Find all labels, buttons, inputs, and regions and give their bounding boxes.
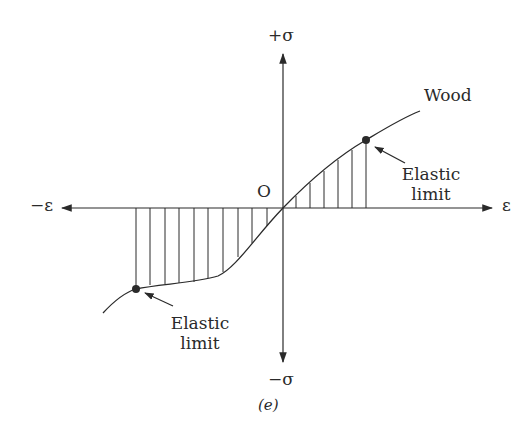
y-negative-label: −σ <box>268 370 294 390</box>
upper-elastic-limit-label: Elastic limit <box>398 165 464 204</box>
x-positive-label: ε <box>502 196 511 216</box>
stress-strain-diagram: +σ −σ ε −ε O Wood Elastic limit Elastic … <box>0 0 530 445</box>
upper-elastic-limit-arrow <box>375 147 405 163</box>
wood-curve <box>103 111 420 313</box>
diagram-canvas <box>0 0 530 445</box>
wood-curve-label: Wood <box>424 86 472 106</box>
tension-hatching <box>296 140 366 208</box>
lower-elastic-limit-line1: Elastic <box>167 314 233 334</box>
upper-elastic-limit-point <box>362 136 370 144</box>
upper-elastic-limit-line2: limit <box>398 185 464 205</box>
x-negative-label: −ε <box>30 196 53 216</box>
lower-elastic-limit-point <box>132 285 140 293</box>
upper-elastic-limit-line1: Elastic <box>398 165 464 185</box>
origin-label: O <box>257 182 271 202</box>
figure-caption: (e) <box>258 397 279 414</box>
lower-elastic-limit-arrow <box>145 293 173 306</box>
lower-elastic-limit-line2: limit <box>167 334 233 354</box>
lower-elastic-limit-label: Elastic limit <box>167 314 233 353</box>
y-positive-label: +σ <box>268 26 294 46</box>
